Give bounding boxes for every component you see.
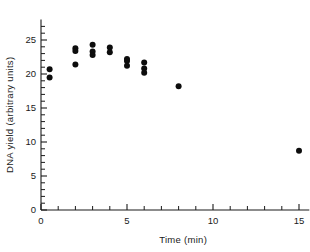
- data-point: [90, 42, 96, 48]
- scatter-chart: 0510150510152025Time (min)DNA yield (arb…: [0, 0, 310, 252]
- data-point-group: [47, 42, 302, 154]
- plot-area: 0510150510152025Time (min)DNA yield (arb…: [0, 0, 310, 252]
- y-axis-title: DNA yield (arbitrary units): [4, 57, 15, 173]
- data-point: [176, 83, 182, 89]
- data-point: [124, 63, 130, 69]
- y-tick-label: 10: [25, 136, 36, 147]
- y-tick-label: 5: [31, 170, 36, 181]
- data-point: [47, 74, 53, 80]
- data-point: [296, 148, 302, 154]
- x-tick-label: 10: [208, 215, 219, 226]
- y-tick-label: 25: [25, 34, 36, 45]
- x-axis-title: Time (min): [159, 234, 207, 245]
- y-tick-label: 20: [25, 68, 36, 79]
- data-point: [90, 52, 96, 58]
- x-tick-label: 0: [38, 215, 43, 226]
- data-point: [141, 70, 147, 76]
- data-point: [72, 48, 78, 54]
- data-point: [72, 61, 78, 67]
- x-tick-label: 5: [124, 215, 129, 226]
- data-point: [141, 59, 147, 65]
- x-tick-label: 15: [294, 215, 305, 226]
- y-tick-label: 15: [25, 102, 36, 113]
- y-tick-label: 0: [31, 204, 36, 215]
- data-point: [47, 66, 53, 72]
- data-point: [107, 49, 113, 55]
